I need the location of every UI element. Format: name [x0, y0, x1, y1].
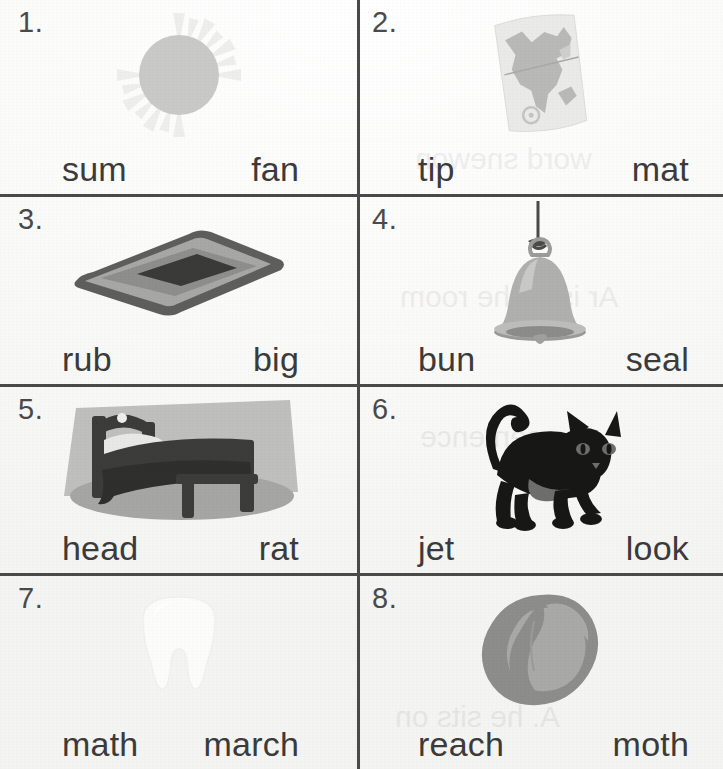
choice-right[interactable]: fan — [251, 152, 299, 186]
item-number: 4. — [372, 203, 397, 236]
worksheet-item-3[interactable]: 3. rub big — [0, 197, 357, 384]
choice-right[interactable]: mat — [632, 152, 689, 186]
choice-left[interactable]: bun — [418, 342, 475, 376]
choice-right[interactable]: look — [626, 531, 689, 565]
choice-left[interactable]: math — [62, 727, 138, 761]
worksheet-item-2[interactable]: 2. tip mat — [360, 0, 723, 194]
worksheet-item-8[interactable]: 8. reach moth — [360, 576, 723, 769]
item-number: 6. — [372, 393, 397, 426]
tooth-icon — [0, 586, 357, 711]
worksheet-item-6[interactable]: 6. jet look — [360, 387, 723, 573]
choice-left[interactable]: reach — [418, 727, 504, 761]
item-number: 8. — [372, 582, 397, 615]
worksheet-item-4[interactable]: 4. bun seal — [360, 197, 723, 384]
answer-choices: bun seal — [360, 342, 723, 376]
choice-right[interactable]: march — [204, 727, 299, 761]
item-number: 3. — [18, 203, 43, 236]
item-number: 7. — [18, 582, 43, 615]
bed-icon — [0, 395, 357, 523]
answer-choices: head rat — [0, 531, 357, 565]
peach-icon — [360, 582, 723, 713]
answer-choices: reach moth — [360, 727, 723, 761]
grid-horizontal-divider — [0, 573, 723, 576]
grid-horizontal-divider — [0, 194, 723, 197]
cat-icon — [360, 389, 723, 535]
worksheet-item-1[interactable]: 1. — [0, 0, 357, 194]
choice-left[interactable]: head — [62, 531, 138, 565]
choice-left[interactable]: tip — [418, 152, 455, 186]
item-number: 5. — [18, 393, 43, 426]
worksheet-page: word snewon Ar is in the room he sentenc… — [0, 0, 723, 769]
choice-left[interactable]: sum — [62, 152, 127, 186]
choice-right[interactable]: seal — [626, 342, 689, 376]
bell-icon — [360, 199, 723, 354]
answer-choices: tip mat — [360, 152, 723, 186]
choice-left[interactable]: jet — [418, 531, 455, 565]
worksheet-item-5[interactable]: 5. head rat — [0, 387, 357, 573]
choice-right[interactable]: rat — [259, 531, 299, 565]
rug-icon — [0, 215, 357, 328]
choice-right[interactable]: big — [253, 342, 299, 376]
sun-icon — [0, 8, 357, 142]
answer-choices: jet look — [360, 531, 723, 565]
choice-right[interactable]: moth — [613, 727, 689, 761]
answer-choices: sum fan — [0, 152, 357, 186]
grid-horizontal-divider — [0, 384, 723, 387]
answer-choices: rub big — [0, 342, 357, 376]
choice-left[interactable]: rub — [62, 342, 112, 376]
worksheet-item-7[interactable]: 7. math march — [0, 576, 357, 769]
map-icon — [360, 8, 723, 142]
answer-choices: math march — [0, 727, 357, 761]
